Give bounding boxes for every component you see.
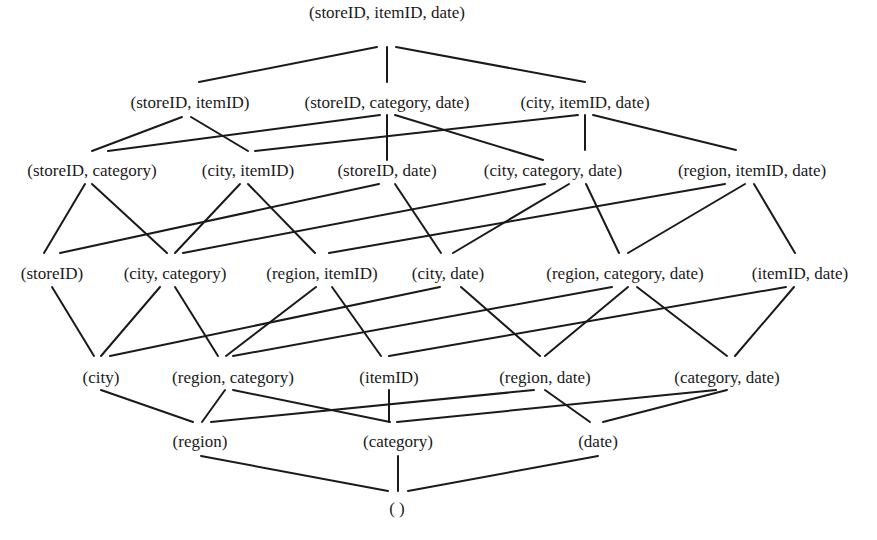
- lattice-edge: [329, 184, 725, 253]
- lattice-edge: [202, 390, 225, 422]
- cuboid-node-reg-cat: (region, category): [172, 369, 294, 386]
- lattice-edge: [183, 184, 545, 253]
- lattice-edge: [44, 184, 85, 253]
- lattice-edge: [92, 117, 182, 151]
- cuboid-node-sid: (storeID): [21, 265, 83, 282]
- cuboid-node-city-cat-d: (city, category, date): [484, 162, 622, 179]
- lattice-edge: [101, 390, 193, 422]
- lattice-edge: [175, 184, 240, 253]
- lattice-edge: [201, 456, 388, 491]
- cuboid-node-city-d: (city, date): [412, 265, 485, 282]
- cuboid-node-reg-iid-d: (region, itemID, date): [678, 162, 826, 179]
- cuboid-node-city-iid-d: (city, itemID, date): [520, 94, 649, 111]
- lattice-edge: [453, 184, 569, 253]
- lattice-edge: [628, 184, 745, 253]
- lattice-edge: [255, 115, 578, 151]
- cuboid-node-reg: (region): [173, 433, 228, 450]
- cuboid-node-apex: ( ): [389, 500, 405, 517]
- cuboid-node-city: (city): [83, 369, 120, 386]
- cuboid-node-cat-d: (category, date): [674, 369, 780, 386]
- lattice-edge: [52, 287, 94, 356]
- cuboid-node-sid-d: (storeID, date): [337, 162, 436, 179]
- lattice-edge: [199, 47, 377, 82]
- lattice-edge: [101, 287, 160, 356]
- lattice-edge: [396, 47, 585, 82]
- lattice-edge: [175, 287, 218, 356]
- lattice-edge: [332, 287, 381, 356]
- cuboid-node-d: (date): [578, 433, 618, 450]
- cuboid-node-sid-iid: (storeID, itemID): [131, 94, 250, 111]
- cuboid-node-cat: (category): [363, 433, 433, 450]
- cuboid-node-iid-d: (itemID, date): [752, 265, 848, 282]
- lattice-edge: [586, 184, 619, 253]
- cuboid-node-iid: (itemID): [359, 369, 418, 386]
- lattice-edge: [735, 287, 794, 356]
- cuboid-node-sid-cat: (storeID, category): [27, 162, 156, 179]
- cuboid-node-reg-d: (region, date): [499, 369, 591, 386]
- lattice-edge: [389, 287, 786, 356]
- lattice-edge: [108, 115, 380, 151]
- lattice-edge: [461, 287, 540, 356]
- lattice-edge: [395, 184, 441, 253]
- cuboid-node-city-iid: (city, itemID): [202, 162, 294, 179]
- lattice-edge: [754, 184, 795, 253]
- cuboid-node-sid-iid-d: (storeID, itemID, date): [309, 4, 465, 21]
- lattice-edge: [408, 456, 598, 491]
- lattice-edge: [110, 287, 440, 356]
- lattice-edge: [593, 115, 736, 150]
- cuboid-node-reg-cat-d: (region, category, date): [546, 265, 703, 282]
- lattice-edge: [248, 184, 315, 253]
- cuboid-node-sid-cat-d: (storeID, category, date): [304, 94, 469, 111]
- cuboid-node-city-cat: (city, category): [124, 265, 227, 282]
- lattice-edge: [233, 287, 612, 356]
- cuboid-node-reg-iid: (region, itemID): [266, 265, 377, 282]
- lattice-edge: [637, 287, 727, 356]
- lattice-edge: [60, 184, 379, 253]
